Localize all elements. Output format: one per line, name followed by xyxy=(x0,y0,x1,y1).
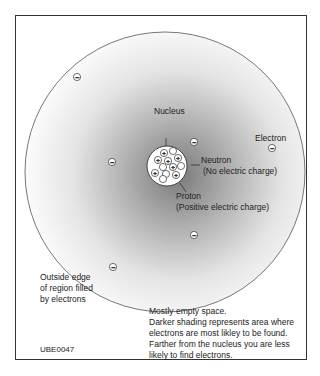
svg-text:−: − xyxy=(192,139,196,146)
svg-text:−: − xyxy=(75,74,79,81)
electron-icon: − xyxy=(268,144,275,151)
electron-label: Electron xyxy=(255,133,286,144)
electron-icon: − xyxy=(109,263,116,270)
caption-line-5: likely to find electrons. xyxy=(149,350,233,361)
caption-line-2: Darker shading represents area where xyxy=(149,317,294,328)
proton-description: (Positive electric charge) xyxy=(176,202,269,213)
caption-line-4: Farther from the nucleus you are less xyxy=(149,339,290,350)
caption-line-1: Mostly empty space. xyxy=(149,306,226,317)
electron-icon: − xyxy=(190,138,197,145)
svg-text:+: + xyxy=(166,158,170,164)
outside-edge-label-2: of region filled xyxy=(40,283,93,294)
neutron-description: (No electric charge) xyxy=(203,166,277,177)
caption-line-3: electrons are most likley to be found. xyxy=(149,328,287,339)
outside-edge-label-1: Outside edge xyxy=(40,272,91,283)
svg-text:−: − xyxy=(192,232,196,239)
svg-text:+: + xyxy=(162,150,166,156)
svg-text:+: + xyxy=(153,170,157,176)
svg-text:−: − xyxy=(270,145,274,152)
electron-icon: − xyxy=(73,73,80,80)
svg-text:+: + xyxy=(171,164,175,170)
outside-edge-label-3: by electrons xyxy=(40,294,86,305)
nucleus: + + + + + + + xyxy=(147,146,187,186)
neutron-label: Neutron xyxy=(201,155,231,166)
nucleus-label: Nucleus xyxy=(154,106,185,117)
svg-text:+: + xyxy=(174,172,178,178)
svg-text:+: + xyxy=(176,155,180,161)
electron-icon: − xyxy=(108,158,115,165)
electron-icon: − xyxy=(190,231,197,238)
proton-label: Proton xyxy=(176,191,201,202)
svg-text:−: − xyxy=(110,159,114,166)
svg-text:−: − xyxy=(111,264,115,271)
figure-code: UBE0047 xyxy=(40,345,74,356)
svg-text:+: + xyxy=(156,157,160,163)
